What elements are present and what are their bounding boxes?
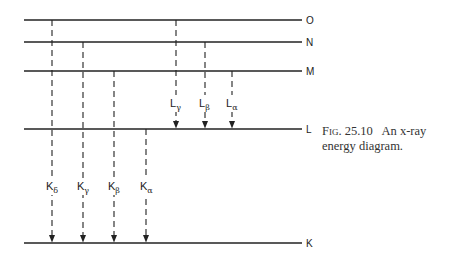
transition-subscript: γ	[176, 103, 181, 112]
arrow-head-icon	[143, 235, 149, 243]
transition-l-6: Lα	[223, 71, 241, 129]
arrow-head-icon	[229, 121, 235, 129]
transition-k-3: Kα	[137, 129, 155, 243]
transition-l-4: Lγ	[167, 20, 185, 129]
transition-subscript: α	[232, 103, 238, 112]
energy-level-o: O	[24, 15, 314, 26]
transition-subscript: δ	[53, 186, 58, 195]
transition-subscript: α	[147, 186, 153, 195]
transition-k-0: Kδ	[43, 20, 61, 243]
energy-level-k: K	[24, 238, 313, 249]
arrow-head-icon	[49, 235, 55, 243]
level-label: N	[306, 37, 313, 48]
energy-level-l: L	[24, 124, 312, 135]
level-label: K	[306, 238, 313, 249]
xray-energy-diagram: ONMLKKδKγKβKαLγLβLα Fig. 25.10 An x-ray …	[0, 0, 469, 257]
arrow-head-icon	[202, 121, 208, 129]
arrow-head-icon	[173, 121, 179, 129]
transition-k-1: Kγ	[74, 42, 92, 243]
figure-number: Fig. 25.10	[322, 124, 373, 138]
energy-level-m: M	[24, 66, 314, 77]
transition-k-2: Kβ	[105, 71, 123, 243]
transition-subscript: β	[205, 103, 210, 112]
transition-l-5: Lβ	[196, 42, 214, 129]
level-label: O	[306, 15, 314, 26]
transition-subscript: β	[115, 186, 120, 195]
arrow-head-icon	[111, 235, 117, 243]
figure-caption: Fig. 25.10 An x-ray energy diagram.	[322, 124, 462, 154]
transition-subscript: γ	[84, 186, 89, 195]
level-label: L	[306, 124, 312, 135]
energy-level-n: N	[24, 37, 313, 48]
level-label: M	[306, 66, 314, 77]
arrow-head-icon	[80, 235, 86, 243]
